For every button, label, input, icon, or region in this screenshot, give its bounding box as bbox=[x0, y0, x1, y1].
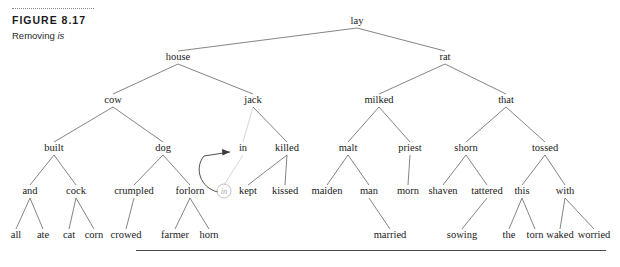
tree-edge bbox=[560, 198, 565, 229]
tree-node: kissed bbox=[272, 185, 299, 196]
tree-node: torn bbox=[527, 229, 545, 240]
tree-edge bbox=[76, 198, 94, 229]
tree-edge bbox=[113, 107, 163, 142]
tree-node: lay bbox=[351, 15, 365, 26]
tree-edge bbox=[522, 198, 535, 229]
tree-edge bbox=[379, 64, 445, 94]
tree-node: forlorn bbox=[175, 185, 205, 196]
tree-node: waked bbox=[546, 229, 574, 240]
tree-node-trace: in bbox=[221, 186, 228, 196]
tree-edge bbox=[545, 155, 565, 185]
tree-edge bbox=[348, 107, 379, 142]
tree-edge bbox=[190, 198, 209, 229]
tree-edge bbox=[369, 198, 390, 229]
tree-edge bbox=[443, 155, 466, 185]
tree-edge bbox=[379, 107, 410, 142]
tree-edge bbox=[509, 198, 522, 229]
tree-edge bbox=[16, 198, 30, 229]
tree-node: cow bbox=[104, 94, 122, 105]
tree-edge bbox=[30, 155, 54, 185]
bottom-horizontal-rule bbox=[136, 250, 606, 251]
tree-node: milked bbox=[364, 94, 394, 105]
tree-node: maiden bbox=[312, 185, 344, 196]
tree-node: cock bbox=[66, 185, 87, 196]
tree-node: with bbox=[556, 185, 575, 196]
tree-edge bbox=[506, 107, 545, 142]
tree-edge bbox=[175, 198, 190, 229]
tree-node: in bbox=[239, 142, 248, 153]
tree-node: all bbox=[11, 229, 22, 240]
tree-edge bbox=[54, 107, 113, 142]
tree-edge bbox=[178, 64, 253, 94]
tree-edge bbox=[327, 155, 348, 185]
tree-edge bbox=[466, 155, 487, 185]
tree-node: shaven bbox=[428, 185, 458, 196]
tree-edge bbox=[69, 198, 76, 229]
tree-node: this bbox=[514, 185, 529, 196]
tree-edge bbox=[285, 155, 287, 185]
tree-edge bbox=[54, 155, 76, 185]
tree-node: corn bbox=[85, 229, 104, 240]
tree-node: morn bbox=[397, 185, 420, 196]
tree-edge bbox=[248, 155, 287, 185]
tree-node: the bbox=[503, 229, 516, 240]
tree-node: married bbox=[374, 229, 407, 240]
tree-node: shorn bbox=[454, 142, 478, 153]
tree-edge bbox=[357, 28, 445, 51]
tree-node: cat bbox=[63, 229, 75, 240]
tree-edge-layer bbox=[16, 28, 594, 229]
tree-node-layer: layhouseratcowjackmilkedthatbuiltdoginki… bbox=[11, 15, 611, 240]
tree-edge bbox=[462, 198, 487, 229]
tree-node: tattered bbox=[471, 185, 503, 196]
tree-node: rat bbox=[439, 51, 450, 62]
tree-edge bbox=[163, 155, 190, 185]
tree-edge bbox=[30, 198, 43, 229]
tree-node: crowed bbox=[111, 229, 143, 240]
tree-edge bbox=[134, 155, 163, 185]
tree-node: jack bbox=[243, 94, 262, 105]
tree-edge bbox=[445, 64, 506, 94]
tree-node: tossed bbox=[532, 142, 559, 153]
tree-edge bbox=[253, 107, 287, 142]
tree-node: malt bbox=[339, 142, 358, 153]
tree-node: ate bbox=[37, 229, 50, 240]
tree-edge bbox=[113, 64, 178, 94]
tree-node: that bbox=[498, 94, 514, 105]
tree-node: man bbox=[360, 185, 379, 196]
tree-node: and bbox=[22, 185, 38, 196]
tree-edge bbox=[466, 107, 506, 142]
tree-edge bbox=[224, 155, 243, 185]
tree-node: sowing bbox=[447, 229, 478, 240]
tree-node: farmer bbox=[161, 229, 189, 240]
tree-edge bbox=[178, 28, 357, 51]
tree-edge bbox=[522, 155, 545, 185]
tree-node: kept bbox=[239, 185, 257, 196]
tree-edge bbox=[243, 107, 253, 142]
syntax-tree: layhouseratcowjackmilkedthatbuiltdoginki… bbox=[0, 0, 620, 267]
tree-edge bbox=[348, 155, 369, 185]
tree-node: priest bbox=[398, 142, 421, 153]
tree-node: dog bbox=[155, 142, 172, 153]
tree-node: killed bbox=[275, 142, 300, 153]
tree-edge bbox=[565, 198, 594, 229]
movement-arrowhead-icon bbox=[222, 149, 230, 156]
tree-edge bbox=[408, 155, 410, 185]
tree-node: crumpled bbox=[114, 185, 154, 196]
tree-node: horn bbox=[199, 229, 219, 240]
tree-edge bbox=[126, 198, 134, 229]
tree-node: house bbox=[166, 51, 191, 62]
tree-node: built bbox=[44, 142, 63, 153]
tree-node: worried bbox=[578, 229, 611, 240]
figure-page: FIGURE 8.17 Removing is layhouseratcowja… bbox=[0, 0, 620, 267]
